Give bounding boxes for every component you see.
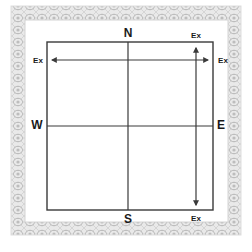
label-ex-left: Ex <box>33 57 43 65</box>
label-ex-right: Ex <box>218 57 228 65</box>
label-west: W <box>31 119 42 131</box>
label-ex-bottom: Ex <box>191 215 201 223</box>
label-south: S <box>124 213 132 225</box>
label-ex-top: Ex <box>191 32 201 40</box>
diagram-canvas: N S W E Ex Ex Ex Ex <box>0 0 252 252</box>
label-north: N <box>124 27 133 39</box>
label-east: E <box>217 119 225 131</box>
